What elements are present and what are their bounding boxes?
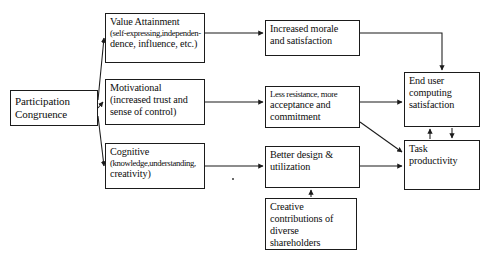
node-line: Creative: [270, 201, 353, 213]
node-line: contributions of: [270, 213, 353, 225]
node-line: Task: [409, 143, 476, 155]
node-line: Increased morale: [270, 23, 356, 35]
node-creative-contributions[interactable]: Creative contributions of diverse shareh…: [265, 198, 357, 250]
node-line: Cognitive: [110, 146, 201, 158]
node-line: Participation: [15, 95, 94, 108]
scan-speck: [232, 178, 234, 180]
node-line: Less resistance, more: [270, 89, 356, 99]
node-line: Motivational: [110, 82, 201, 94]
node-line: commitment: [270, 111, 356, 123]
edge-pc-to-motivational: [98, 102, 103, 108]
node-line: Value Attainment: [110, 16, 201, 28]
node-end-user-computing-satisfaction[interactable]: End user computing satisfaction: [404, 72, 480, 127]
node-line: dence, influence, etc.): [110, 38, 201, 50]
edge-pc-to-cognitive: [98, 116, 104, 166]
edge-increased-morale-to-end-user: [360, 33, 442, 70]
node-participation-congruence[interactable]: Participation Congruence: [10, 90, 98, 126]
diagram-canvas: Participation Congruence Value Attainmen…: [0, 0, 488, 259]
node-motivational[interactable]: Motivational (increased trust and sense …: [105, 79, 205, 125]
node-line: creativity): [110, 168, 201, 180]
node-line: (increased trust and: [110, 94, 201, 106]
node-increased-morale[interactable]: Increased morale and satisfaction: [265, 20, 360, 56]
node-line: Better design &: [270, 149, 356, 161]
node-less-resistance[interactable]: Less resistance, more acceptance and com…: [265, 86, 360, 128]
node-line: computing: [409, 87, 476, 99]
node-line: (knowledge,understanding,: [110, 158, 201, 168]
node-line: (self-expressing,independen-: [110, 28, 201, 38]
node-line: satisfaction: [409, 99, 476, 111]
node-line: utilization: [270, 161, 356, 173]
diagram-connectors: [0, 0, 488, 259]
node-line: sense of control): [110, 106, 201, 118]
node-line: shareholders: [270, 237, 353, 249]
node-better-design[interactable]: Better design & utilization: [265, 146, 360, 188]
node-line: productivity: [409, 155, 476, 167]
edge-pc-to-value-attainment: [98, 38, 104, 100]
node-line: End user: [409, 75, 476, 87]
edge-less-resistance-to-task-productivity: [360, 122, 402, 152]
node-value-attainment[interactable]: Value Attainment (self-expressing,indepe…: [105, 13, 205, 63]
node-line: diverse: [270, 225, 353, 237]
node-line: and satisfaction: [270, 35, 356, 47]
node-line: Congruence: [15, 108, 94, 121]
node-task-productivity[interactable]: Task productivity: [404, 140, 480, 190]
node-line: acceptance and: [270, 99, 356, 111]
node-cognitive[interactable]: Cognitive (knowledge,understanding, crea…: [105, 143, 205, 189]
